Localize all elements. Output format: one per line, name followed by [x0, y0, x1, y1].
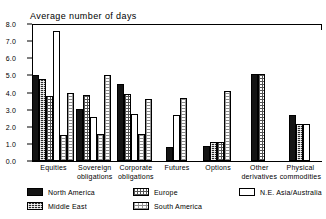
- bar: [46, 96, 53, 161]
- chart-legend: North AmericaMiddle EastEuropeSouth Amer…: [27, 188, 319, 216]
- bar: [145, 99, 152, 162]
- legend-label: N.E. Asia/Australia: [260, 189, 322, 196]
- bar-group: [203, 24, 231, 161]
- plot-area: [33, 24, 321, 161]
- x-axis-label-line: obligations: [108, 172, 163, 181]
- bar-group: [32, 24, 74, 161]
- x-axis-label-line: commodities: [273, 172, 326, 181]
- bar: [97, 134, 104, 161]
- bar: [53, 31, 60, 161]
- bar: [251, 74, 258, 161]
- frame-right-tick: [321, 25, 322, 30]
- bar: [32, 75, 39, 161]
- legend-label: South America: [154, 203, 202, 210]
- x-axis-label-line: Physical: [273, 163, 326, 172]
- y-tick-label: 2.0: [6, 123, 16, 130]
- y-tick-label: 4.0: [6, 89, 16, 96]
- bar: [224, 91, 231, 161]
- bar: [124, 94, 131, 161]
- legend-swatch: [239, 188, 255, 196]
- y-tick-label: 7.0: [6, 38, 16, 45]
- y-tick-label: 6.0: [6, 55, 16, 62]
- legend-swatch: [27, 188, 43, 196]
- bar: [90, 117, 97, 161]
- x-axis-labels: EquitiesSovereignobligationsCorporateobl…: [33, 163, 321, 187]
- y-tick-label: 0.0: [6, 158, 16, 165]
- legend-item[interactable]: Europe: [133, 188, 178, 196]
- bar-group: [76, 24, 111, 161]
- bar: [303, 124, 310, 161]
- bar-group: [251, 24, 265, 161]
- x-axis-label: Physicalcommodities: [273, 163, 326, 181]
- y-tick-label: 1.0: [6, 140, 16, 147]
- legend-item[interactable]: N.E. Asia/Australia: [239, 188, 322, 196]
- bar-group: [117, 24, 152, 161]
- y-tick-label: 5.0: [6, 72, 16, 79]
- bar: [258, 74, 265, 161]
- bar: [289, 115, 296, 161]
- bar: [67, 93, 74, 162]
- bar: [117, 84, 124, 161]
- y-axis: 8.07.06.05.04.03.02.01.00.0: [0, 0, 32, 162]
- legend-label: North America: [48, 189, 95, 196]
- legend-item[interactable]: Middle East: [27, 202, 87, 210]
- bar: [203, 146, 210, 161]
- bar: [131, 114, 138, 161]
- y-tick-label: 3.0: [6, 106, 16, 113]
- bar: [138, 134, 145, 161]
- y-tick-label: 8.0: [6, 21, 16, 28]
- bar: [296, 124, 303, 161]
- bar: [60, 135, 67, 161]
- bar: [76, 109, 83, 161]
- bar-group: [289, 24, 310, 161]
- bar-group: [166, 24, 187, 161]
- legend-swatch: [27, 202, 43, 210]
- bar: [217, 142, 224, 161]
- legend-item[interactable]: South America: [133, 202, 202, 210]
- legend-swatch: [133, 188, 149, 196]
- legend-item[interactable]: North America: [27, 188, 95, 196]
- chart-title: Average number of days: [30, 11, 137, 21]
- bar: [173, 115, 180, 161]
- bar: [210, 142, 217, 161]
- legend-label: Middle East: [48, 203, 87, 210]
- legend-label: Europe: [154, 189, 178, 196]
- bar: [83, 95, 90, 161]
- bar: [180, 98, 187, 161]
- bar-chart: Average number of days 8.07.06.05.04.03.…: [0, 0, 326, 219]
- bar: [166, 147, 173, 161]
- bar: [39, 79, 46, 161]
- bar: [104, 75, 111, 161]
- legend-swatch: [133, 202, 149, 210]
